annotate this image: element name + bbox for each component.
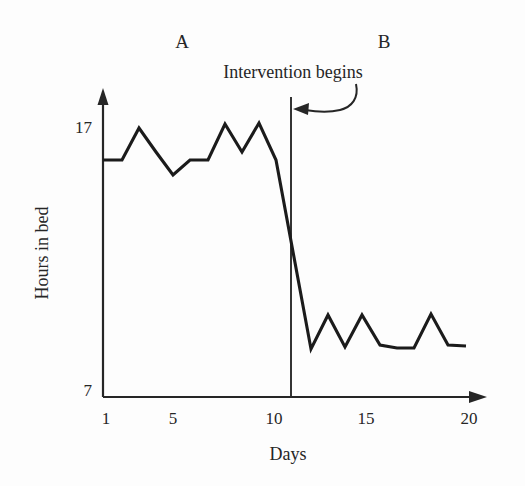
x-tick-label-5: 5 (169, 409, 178, 428)
y-tick-label-7: 7 (84, 381, 93, 400)
annotation-arrow (293, 84, 357, 115)
x-axis-arrowhead (469, 391, 487, 403)
x-axis-title: Days (270, 444, 307, 464)
x-tick-label-15: 15 (358, 409, 375, 428)
y-axis-arrowhead (98, 88, 109, 105)
intervention-annotation-label: Intervention begins (223, 62, 362, 82)
x-tick-label-10: 10 (266, 409, 283, 428)
y-axis-title: Hours in bed (32, 207, 52, 300)
single-case-design-figure: A B Intervention begins 17 7 1 5 10 15 2… (0, 0, 525, 486)
y-axis (98, 88, 109, 397)
phase-label-b: B (378, 31, 391, 52)
chart-svg: A B Intervention begins 17 7 1 5 10 15 2… (0, 0, 525, 486)
x-axis (103, 391, 487, 403)
y-tick-label-17: 17 (75, 118, 93, 137)
x-tick-label-20: 20 (461, 409, 478, 428)
annotation-arrow-head (293, 103, 309, 115)
series-line-hours-in-bed (103, 123, 466, 349)
annotation-arrow-curve (305, 84, 357, 112)
phase-label-a: A (175, 31, 189, 52)
x-tick-label-1: 1 (102, 409, 111, 428)
